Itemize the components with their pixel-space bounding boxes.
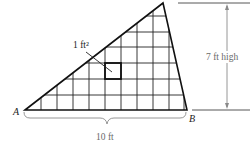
triangle-area-diagram: A B 1 ft² 7 ft high 10 ft	[0, 0, 250, 151]
height-label: 7 ft high	[206, 52, 238, 62]
vertex-b-label: B	[189, 113, 195, 124]
unit-grid	[20, 0, 190, 112]
vertex-a-label: A	[12, 106, 20, 117]
unit-square-label: 1 ft²	[73, 40, 89, 50]
base-label: 10 ft	[96, 132, 114, 142]
unit-square-highlight	[105, 63, 121, 79]
unit-square-leader	[86, 52, 112, 72]
base-brace	[24, 112, 186, 124]
triangle-outline	[25, 3, 187, 110]
